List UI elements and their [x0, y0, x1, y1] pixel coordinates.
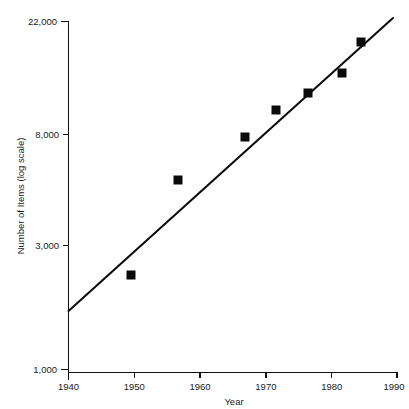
y-tick-label-1000: 1,000: [33, 364, 57, 375]
y-tick-label-22000: 22,000: [28, 16, 57, 27]
y-tick-label-3000: 3,000: [35, 240, 59, 251]
data-point-marker: [338, 69, 347, 78]
x-tick-label-1940: 1940: [58, 381, 79, 392]
chart-canvas: 22,000 8,000 3,000 1,000 1940 1950 1960 …: [0, 0, 409, 409]
x-tick-label-1960: 1960: [190, 381, 211, 392]
x-tick-label-1980: 1980: [321, 381, 342, 392]
data-point-marker: [304, 89, 313, 98]
data-point-marker: [174, 176, 183, 185]
chart-background: [0, 0, 409, 409]
x-axis-title: Year: [224, 396, 243, 407]
x-tick-label-1990: 1990: [383, 381, 404, 392]
x-tick-label-1970: 1970: [255, 381, 276, 392]
data-point-marker: [127, 271, 136, 280]
y-tick-label-8000: 8,000: [35, 129, 59, 140]
data-point-marker: [272, 106, 281, 115]
x-tick-label-1950: 1950: [124, 381, 145, 392]
chart-figure: 22,000 8,000 3,000 1,000 1940 1950 1960 …: [0, 0, 409, 409]
data-point-marker: [357, 38, 366, 47]
data-point-marker: [241, 133, 250, 142]
y-axis-title: Number of Items (log scale): [15, 138, 26, 255]
